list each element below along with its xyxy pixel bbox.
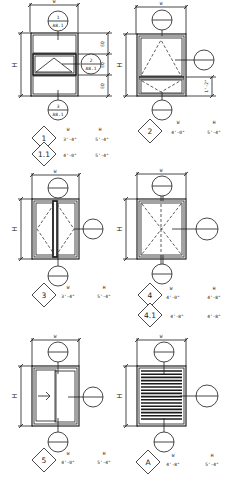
svg-text:3: 3 [57, 104, 60, 109]
slide-arrow-icon [38, 392, 50, 400]
svg-text:1'-2": 1'-2" [204, 79, 209, 93]
section-tag-top [152, 10, 172, 36]
section-tag-2: 2 A8.1 [62, 54, 101, 74]
section-tag-side [68, 387, 103, 407]
section-tag-top [152, 176, 172, 201]
svg-text:W: W [160, 1, 163, 6]
svg-text:3'-4": 3'-4" [61, 294, 75, 299]
svg-text:5'-4": 5'-4" [95, 153, 109, 158]
svg-text:5'-4": 5'-4" [205, 462, 219, 467]
section-tag-bottom [48, 255, 68, 286]
louver-slats [141, 371, 182, 419]
section-tag-top [48, 178, 68, 198]
svg-text:2: 2 [90, 58, 93, 63]
width-label: W [53, 0, 56, 4]
svg-text:4'-0": 4'-0" [171, 130, 185, 135]
svg-text:H: H [11, 226, 19, 231]
height-dimension: H [11, 364, 33, 428]
panel-type-2: W H [116, 1, 221, 143]
panel-type-1: W 1 A8.1 H [11, 0, 112, 166]
svg-text:H: H [116, 393, 124, 398]
window-elevation [32, 199, 79, 259]
type-mark-5: 5 W H 4'-0" 5'-4" [32, 448, 111, 472]
window-schedule-sheet: W 1 A8.1 H [0, 0, 236, 480]
type-mark-4-1: 4.1 4'-8" 4'-8" [138, 303, 221, 327]
panel-type-4: W H [116, 168, 221, 327]
svg-text:W: W [67, 285, 70, 290]
height-dimension: H [11, 197, 33, 261]
svg-text:H: H [211, 453, 214, 458]
svg-text:4'-0": 4'-0" [61, 460, 75, 465]
svg-text:H: H [103, 285, 106, 290]
window-elevation [32, 366, 79, 426]
svg-text:W: W [160, 168, 163, 173]
svg-text:4'-0": 4'-0" [166, 295, 180, 300]
svg-text:5'-4": 5'-4" [95, 137, 109, 142]
svg-text:5'-4": 5'-4" [97, 460, 111, 465]
svg-text:W: W [67, 127, 70, 132]
svg-text:W: W [172, 453, 175, 458]
svg-text:4'-8": 4'-8" [207, 314, 221, 319]
section-tag-side [175, 50, 214, 70]
section-tag-top [154, 342, 174, 375]
svg-text:A8.1: A8.1 [53, 112, 64, 117]
svg-text:4'-8": 4'-8" [170, 314, 184, 319]
svg-text:1: 1 [57, 15, 60, 20]
svg-text:3: 3 [42, 291, 47, 300]
svg-text:4: 4 [148, 291, 153, 300]
section-tag-top [48, 342, 68, 374]
panel-type-5: W H [11, 334, 111, 472]
height-dimension: H [116, 197, 138, 261]
svg-text:A8.1: A8.1 [86, 66, 97, 71]
type-mark-2: 2 W H 4'-0" 5'-4" [138, 119, 221, 143]
svg-text:W: W [54, 169, 57, 174]
section-tag-side [172, 218, 218, 240]
svg-text:4.1: 4.1 [144, 311, 156, 320]
svg-text:H: H [103, 451, 106, 456]
svg-text:H: H [116, 226, 124, 231]
svg-text:H: H [99, 127, 102, 132]
svg-text:EQ: EQ [100, 41, 105, 47]
svg-text:4'-8": 4'-8" [166, 462, 180, 467]
section-tag-side [74, 219, 103, 239]
svg-text:4'-0": 4'-0" [63, 153, 77, 158]
svg-text:4'-8": 4'-8" [207, 295, 221, 300]
section-tag-3: 3 A8.1 [48, 90, 68, 120]
svg-text:H: H [116, 62, 124, 67]
svg-text:3'-4": 3'-4" [63, 137, 77, 142]
svg-text:5: 5 [42, 456, 47, 465]
type-mark-1-1: 1.1 4'-0" 5'-4" [32, 142, 109, 166]
window-elevation [137, 34, 186, 96]
section-tag-bottom [154, 418, 174, 452]
svg-text:A: A [145, 458, 151, 467]
louver-elevation [137, 366, 186, 426]
window-elevation [31, 33, 78, 96]
type-mark-A: A W H 4'-8" 5'-4" [136, 450, 219, 474]
svg-text:H: H [213, 286, 216, 291]
panel-type-A: W H [116, 334, 219, 474]
svg-text:1.1: 1.1 [38, 150, 50, 159]
svg-text:H: H [213, 120, 216, 125]
svg-text:2: 2 [148, 127, 153, 136]
svg-text:W: W [177, 120, 180, 125]
svg-text:W: W [160, 334, 163, 339]
section-tag-1: 1 A8.1 [48, 11, 68, 40]
svg-text:H: H [11, 393, 19, 398]
svg-text:A8.1: A8.1 [53, 23, 64, 28]
height-dimension: H [116, 32, 138, 98]
svg-text:W: W [54, 334, 57, 339]
height-dimension: H [116, 364, 138, 428]
height-label: H [11, 62, 19, 67]
svg-text:5'-4": 5'-4" [97, 294, 111, 299]
svg-text:W: W [170, 286, 173, 291]
svg-text:W: W [67, 451, 70, 456]
type-mark-3: 3 W H 3'-4" 5'-4" [32, 283, 111, 307]
height-dimension: H [11, 31, 32, 98]
sill-dimension: 1'-2" [186, 75, 216, 98]
panel-type-3: W H [11, 169, 111, 307]
svg-text:EQ: EQ [100, 83, 105, 89]
section-tag-bottom [48, 418, 68, 452]
svg-text:5'-4": 5'-4" [207, 130, 221, 135]
